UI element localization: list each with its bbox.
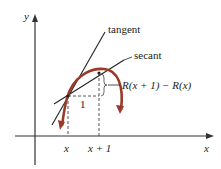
y-axis-arrow-icon [32, 14, 38, 22]
run-label: 1 [80, 98, 86, 110]
rise-brace [101, 74, 107, 96]
tick-x-plus-1-label: x + 1 [87, 142, 111, 154]
tick-x-label: x [63, 142, 69, 154]
curve-left-arrow-icon [58, 120, 65, 130]
curve-r [62, 69, 122, 126]
secant-line [54, 60, 124, 104]
x-axis-arrow-icon [206, 133, 214, 139]
x-axis-label: x [203, 142, 209, 154]
derivative-diagram: y x tangent secant R(x + 1) − R(x) 1 x x… [0, 0, 221, 169]
difference-label: R(x + 1) − R(x) [121, 79, 192, 92]
tangent-label: tangent [108, 23, 140, 35]
secant-leader [124, 57, 132, 60]
point-x [66, 94, 69, 97]
curve-right-arrow-icon [116, 105, 124, 114]
y-axis-label: y [23, 10, 29, 22]
secant-label: secant [134, 49, 161, 61]
point-x-plus-1 [97, 71, 100, 74]
